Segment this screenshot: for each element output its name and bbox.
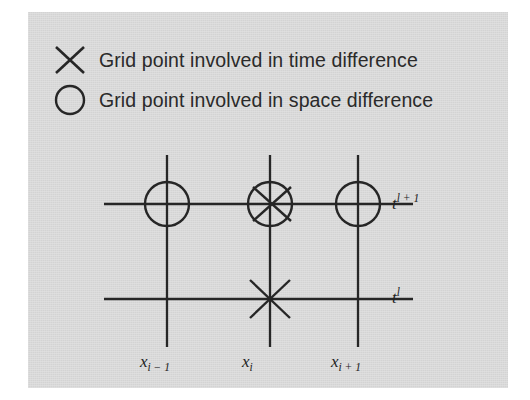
legend-label-time-difference: Grid point involved in time difference — [99, 49, 418, 72]
x-cross-marker-icon — [50, 40, 90, 80]
circle-marker-icon — [50, 80, 90, 120]
legend-label-space-difference: Grid point involved in space difference — [99, 89, 433, 112]
legend-row-space-difference: Grid point involved in space difference — [50, 80, 490, 120]
legend-row-time-difference: Grid point involved in time difference — [50, 40, 490, 80]
axis-label-time-lower: tl — [392, 286, 400, 308]
axis-label-x-i-plus-1: xi + 1 — [331, 352, 361, 373]
stencil-grid-diagram — [50, 120, 498, 370]
axis-label-time-upper: tl + 1 — [392, 192, 419, 214]
figure-panel: Grid point involved in time difference G… — [28, 12, 508, 388]
legend: Grid point involved in time difference G… — [50, 40, 490, 120]
axis-label-x-i: xi — [242, 352, 253, 373]
axis-label-x-i-minus-1: xi − 1 — [140, 352, 170, 373]
